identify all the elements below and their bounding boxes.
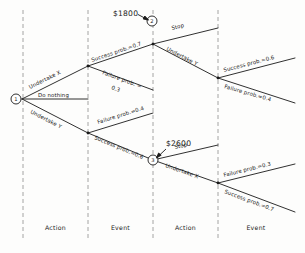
column-label-action-2: Action — [175, 224, 196, 231]
decision-tree-diagram: 1 2 3 $1800 $2600 Undertake X Do nothing… — [0, 0, 305, 253]
label-lower-right-success: Success prob.=0.7 — [223, 188, 275, 213]
label-x-failure-prob-line2: 0.3 — [111, 84, 121, 93]
label-x-failure-prob-line1: Failure prob. = — [101, 69, 142, 90]
junction-dot-node2-decision — [152, 43, 155, 46]
node-3-label: 3 — [151, 157, 154, 163]
branch-lower-right-success — [218, 183, 295, 212]
node-2[interactable]: 2 — [147, 16, 157, 26]
column-labels: Action Event Action Event — [45, 224, 266, 231]
node-3[interactable]: 3 — [148, 155, 158, 165]
node2-action-branches — [153, 28, 218, 78]
label-undertake-x: Undertake X — [28, 69, 62, 90]
decision-tree-canvas: 1 2 3 $1800 $2600 Undertake X Do nothing… — [0, 0, 305, 253]
branch-undertake-y — [22, 99, 88, 133]
junction-dot-undertake-x — [87, 65, 90, 68]
label-x-success-prob: Success prob.=0.7 — [90, 40, 142, 63]
column-label-action-1: Action — [45, 224, 66, 231]
payoff-1800: $1800 — [113, 9, 149, 20]
junction-dot-undertake-y — [87, 132, 90, 135]
junction-dot-upper-right — [217, 77, 220, 80]
label-node3-stop: Stop — [174, 141, 188, 151]
column-label-event-2: Event — [246, 224, 265, 231]
node-2-label: 2 — [150, 18, 153, 24]
node3-action-branches — [153, 145, 218, 183]
label-do-nothing: Do nothing — [38, 92, 69, 99]
label-node3-undertake-x: Undertake X — [165, 162, 200, 179]
label-node2-undertake-y: Undertake Y — [166, 46, 200, 67]
label-node2-stop: Stop — [171, 22, 185, 32]
label-upper-right-success: Success prob.=0.6 — [223, 54, 276, 74]
payoff-1800-label: $1800 — [113, 9, 138, 18]
branch-node2-stop — [153, 28, 218, 44]
label-y-success-prob: Success prob.=0.6 — [93, 134, 145, 161]
node-1[interactable]: 1 — [11, 94, 21, 104]
junction-dot-lower-right — [217, 182, 220, 185]
node-1-label: 1 — [14, 96, 17, 102]
column-label-event-1: Event — [111, 224, 130, 231]
